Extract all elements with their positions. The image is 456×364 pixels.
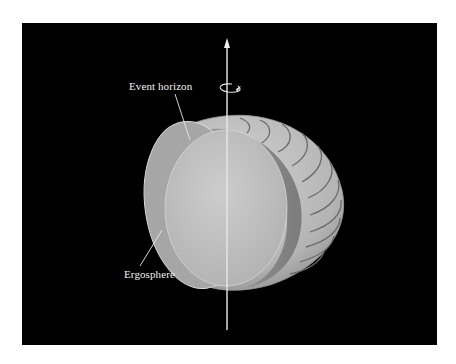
black-hole-diagram (0, 0, 456, 364)
event-horizon-sphere (165, 130, 287, 286)
ergosphere-label: Ergosphere (124, 268, 175, 280)
rotation-direction-icon (220, 84, 241, 92)
event-horizon-label: Event horizon (129, 80, 192, 92)
rotation-axis-arrowhead-icon (224, 38, 230, 48)
